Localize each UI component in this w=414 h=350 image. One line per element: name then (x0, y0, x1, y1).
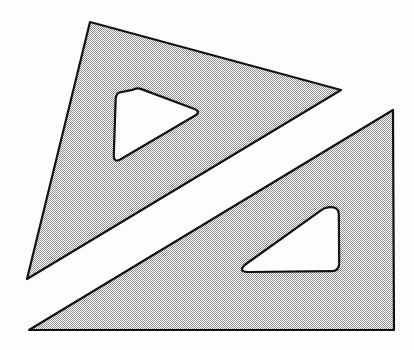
figure-canvas: Two Overlapping Set Squares (Drafting Tr… (0, 0, 414, 350)
two-set-squares-drawing (0, 0, 414, 350)
